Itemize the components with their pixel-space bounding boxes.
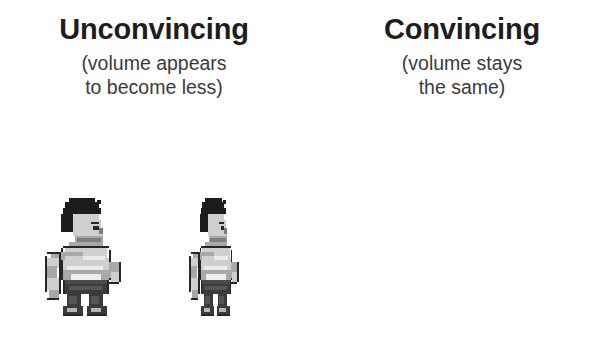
- subtitle-convincing: (volume stays the same): [308, 51, 616, 101]
- subtitle-line-2: the same): [308, 75, 616, 100]
- caption-unconvincing: Unconvincing (volume appears to become l…: [0, 14, 308, 100]
- subtitle-line-1: (volume appears: [0, 51, 308, 76]
- caption-convincing: Convincing (volume stays the same): [308, 14, 616, 100]
- column-convincing: Convincing (volume stays the same): [308, 0, 616, 357]
- subtitle-line-2: to become less): [0, 75, 308, 100]
- heading-convincing: Convincing: [308, 14, 616, 45]
- heading-unconvincing: Unconvincing: [0, 14, 308, 45]
- column-unconvincing: Unconvincing (volume appears to become l…: [0, 0, 308, 357]
- illustration-canvas: Unconvincing (volume appears to become l…: [0, 0, 616, 357]
- subtitle-line-1: (volume stays: [308, 51, 616, 76]
- wrestler-sprite-original-left: [43, 196, 123, 318]
- subtitle-unconvincing: (volume appears to become less): [0, 51, 308, 101]
- wrestler-sprite-squashed: [188, 196, 240, 318]
